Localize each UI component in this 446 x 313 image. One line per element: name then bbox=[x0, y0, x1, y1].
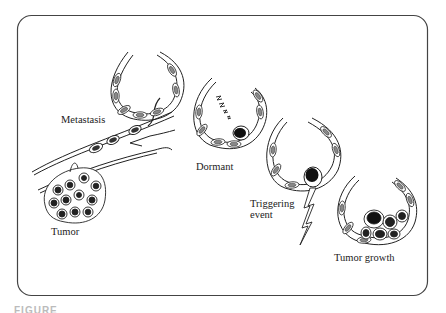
figure-diagram: Metastasis Tumor Dormant Triggering even… bbox=[0, 0, 446, 313]
capillary-dormant bbox=[194, 78, 267, 149]
label-tumor-growth: Tumor growth bbox=[334, 252, 395, 263]
diagram-canvas bbox=[0, 0, 446, 313]
label-triggering-line1: Triggering bbox=[250, 198, 295, 209]
lightning-bolt-icon bbox=[300, 188, 316, 245]
dormant-cell bbox=[233, 126, 249, 140]
figure-caption-fragment: FIGURE bbox=[14, 305, 58, 313]
capillary-triggering bbox=[267, 118, 341, 191]
capillary-cells-1 bbox=[112, 62, 181, 118]
capillary-cells-2 bbox=[195, 88, 265, 147]
label-dormant: Dormant bbox=[196, 161, 233, 172]
growing-tumor-cluster bbox=[361, 210, 408, 240]
label-metastasis: Metastasis bbox=[61, 114, 105, 125]
label-tumor: Tumor bbox=[51, 226, 79, 237]
circulating-cells bbox=[88, 124, 143, 155]
primary-tumor bbox=[44, 163, 105, 223]
activated-cell bbox=[304, 167, 322, 187]
sleep-zigzag-icon bbox=[216, 96, 231, 119]
label-triggering-line2: event bbox=[250, 209, 273, 220]
